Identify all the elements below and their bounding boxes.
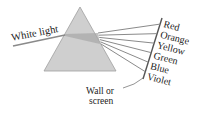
ray-orange	[99, 34, 158, 36]
prism-diagram: White light Wall or screen RedOrangeYell…	[0, 0, 204, 116]
white-light-label: White light	[10, 23, 59, 43]
screen-label-line2: screen	[89, 96, 114, 106]
screen-leader-line	[123, 78, 143, 88]
ray-yellow	[99, 37, 154, 43]
ray-red	[98, 24, 160, 33]
label-violet: Violet	[146, 71, 173, 88]
color-labels: RedOrangeYellowGreenBlueViolet	[146, 18, 191, 87]
screen-label-line1: Wall or	[86, 86, 115, 96]
